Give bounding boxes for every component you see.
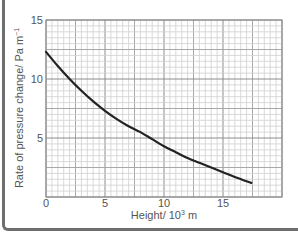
x-tick-label: 5 [102, 197, 108, 209]
y-tick-label: 15 [31, 14, 43, 26]
x-tick-label: 10 [158, 197, 170, 209]
x-tick-label: 15 [217, 197, 229, 209]
y-tick-label: 10 [31, 73, 43, 85]
x-axis-label: Height/ 103 m [131, 209, 197, 221]
y-axis-label: Rate of pressure change/ Pa m−1 [13, 28, 25, 188]
line-chart: 051015 51015 Height/ 103 m Rate of press… [0, 0, 298, 239]
x-tick-label: 0 [43, 197, 49, 209]
y-tick-label: 5 [37, 132, 43, 144]
grid-lines [46, 20, 282, 197]
data-curve [46, 52, 251, 183]
x-tick-labels: 051015 [43, 197, 229, 209]
y-tick-labels: 51015 [31, 14, 43, 144]
